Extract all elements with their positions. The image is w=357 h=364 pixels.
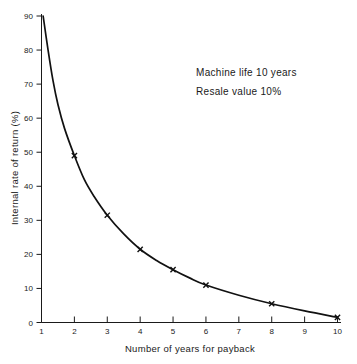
- y-tick-label: 90: [24, 12, 33, 21]
- irr-payback-line-chart: 0102030405060708090 12345678910 Number o…: [0, 0, 357, 364]
- y-axis: 0102030405060708090: [24, 12, 41, 328]
- x-tick-label: 5: [171, 327, 176, 336]
- x-axis: 12345678910: [39, 317, 342, 337]
- y-axis-title: Internal rate of return (%): [9, 111, 20, 225]
- y-tick-label: 0: [29, 319, 34, 328]
- x-axis-tick-labels: 12345678910: [39, 327, 342, 336]
- x-tick-label: 3: [105, 327, 110, 336]
- x-tick-label: 8: [269, 327, 274, 336]
- y-tick-label: 40: [24, 182, 33, 191]
- x-axis-title: Number of years for payback: [125, 343, 255, 354]
- y-axis-tick-marks: [37, 16, 42, 323]
- x-tick-label: 4: [138, 327, 143, 336]
- y-tick-label: 80: [24, 46, 33, 55]
- irr-curve: [43, 16, 337, 317]
- y-tick-label: 70: [24, 80, 33, 89]
- x-tick-label: 7: [237, 327, 242, 336]
- chart-container: 0102030405060708090 12345678910 Number o…: [0, 0, 357, 364]
- data-point-marker: [138, 247, 143, 252]
- x-tick-label: 10: [333, 327, 342, 336]
- x-tick-label: 2: [72, 327, 77, 336]
- y-axis-tick-labels: 0102030405060708090: [24, 12, 33, 328]
- data-point-markers: [72, 153, 340, 320]
- y-tick-label: 60: [24, 114, 33, 123]
- x-tick-label: 6: [204, 327, 209, 336]
- y-tick-label: 30: [24, 216, 33, 225]
- y-tick-label: 50: [24, 148, 33, 157]
- x-tick-label: 9: [302, 327, 307, 336]
- y-tick-label: 10: [24, 284, 33, 293]
- x-axis-tick-marks: [42, 317, 338, 323]
- data-point-marker: [105, 213, 110, 218]
- y-tick-label: 20: [24, 250, 33, 259]
- annotation-machine-life: Machine life 10 years: [196, 67, 297, 78]
- x-tick-label: 1: [39, 327, 44, 336]
- annotation-resale-value: Resale value 10%: [196, 86, 281, 97]
